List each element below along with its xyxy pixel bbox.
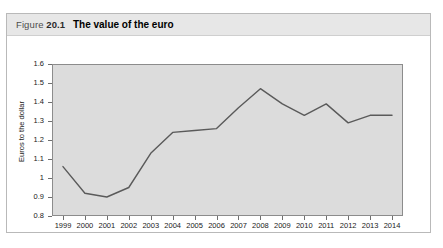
chart-area: Euros to the dollar 1.61.51.41.31.21.110…: [7, 35, 430, 232]
y-axis-tick-label: 1.5: [14, 79, 44, 87]
x-axis-tick-mark: [304, 216, 305, 220]
euro-value-line: [63, 89, 392, 197]
x-axis-tick-mark: [392, 216, 393, 220]
y-axis-tick-label: 1: [14, 174, 44, 182]
figure-number: Figure 20.1: [16, 19, 68, 30]
x-axis-tick-mark: [370, 216, 371, 220]
x-axis-tick-mark: [282, 216, 283, 220]
y-axis-tick-label: 1.1: [14, 155, 44, 163]
y-axis-tick-label: 1.2: [14, 136, 44, 144]
y-axis-label: Euros to the dollar: [17, 82, 26, 182]
x-axis-tick-mark: [107, 216, 108, 220]
x-axis-tick-mark: [173, 216, 174, 220]
line-series-plot: [52, 64, 403, 216]
x-axis-tick-label: 2014: [375, 222, 409, 230]
y-axis-tick-label: 1.4: [14, 98, 44, 106]
figure-title: The value of the euro: [73, 19, 174, 30]
x-axis-tick-mark: [238, 216, 239, 220]
x-axis-tick-mark: [326, 216, 327, 220]
y-axis-tick-label: 0.9: [14, 193, 44, 201]
x-axis-tick-mark: [195, 216, 196, 220]
y-axis-tick-label: 0.8: [14, 212, 44, 220]
x-axis-tick-mark: [129, 216, 130, 220]
x-axis-tick-mark: [260, 216, 261, 220]
figure-container: Figure 20.1 The value of the euro Euros …: [6, 13, 431, 233]
y-axis-tick-label: 1.6: [14, 60, 44, 68]
x-axis-tick-mark: [85, 216, 86, 220]
x-axis-tick-mark: [151, 216, 152, 220]
x-axis-tick-mark: [63, 216, 64, 220]
y-axis-tick-mark: [48, 216, 52, 217]
figure-caption: Figure 20.1 The value of the euro: [16, 18, 174, 32]
y-axis-tick-label: 1.3: [14, 117, 44, 125]
x-axis-tick-mark: [348, 216, 349, 220]
figure-number-value: 20.1: [46, 19, 65, 30]
x-axis-tick-mark: [217, 216, 218, 220]
figure-number-prefix: Figure: [16, 19, 44, 30]
